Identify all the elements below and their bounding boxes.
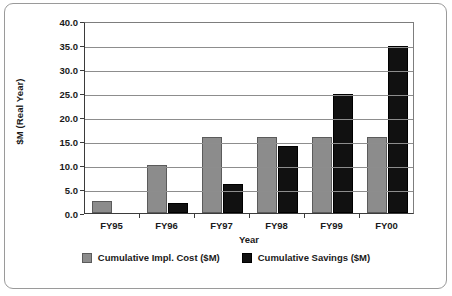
plot-area (84, 22, 414, 214)
chart-figure: $M (Real Year) 0.05.010.015.020.025.030.… (0, 0, 452, 296)
y-axis-title: $M (Real Year) (14, 62, 25, 162)
y-tick-label: 25.0 (32, 89, 78, 100)
y-tick-label: 0.0 (32, 209, 78, 220)
legend-item-savings[interactable]: Cumulative Savings ($M) (242, 252, 370, 263)
y-tick-mark (80, 22, 84, 23)
x-tick-label-fy95: FY95 (100, 220, 123, 231)
y-tick-mark (80, 46, 84, 47)
y-tick-mark (80, 70, 84, 71)
y-tick-label: 40.0 (32, 17, 78, 28)
legend-item-cost[interactable]: Cumulative Impl. Cost ($M) (82, 252, 220, 263)
x-tick-label-fy96: FY96 (155, 220, 178, 231)
y-tick-mark (80, 142, 84, 143)
y-tick-label: 5.0 (32, 185, 78, 196)
x-axis-title: Year (84, 234, 414, 245)
x-tick-mark (359, 214, 360, 218)
y-tick-label: 30.0 (32, 65, 78, 76)
x-tick-mark (194, 214, 195, 218)
y-tick-label: 20.0 (32, 113, 78, 124)
x-tick-label-fy98: FY98 (265, 220, 288, 231)
y-tick-mark (80, 94, 84, 95)
y-tick-label: 10.0 (32, 161, 78, 172)
bar-savings-fy00 (388, 46, 408, 213)
bar-cost-fy00 (367, 137, 387, 213)
y-tick-label: 35.0 (32, 41, 78, 52)
y-tick-mark (80, 166, 84, 167)
x-tick-mark (304, 214, 305, 218)
x-tick-mark (139, 214, 140, 218)
legend-label: Cumulative Savings ($M) (258, 252, 370, 263)
legend-swatch-savings-icon (242, 253, 252, 263)
chart-area: $M (Real Year) 0.05.010.015.020.025.030.… (0, 0, 452, 296)
x-tick-label-fy97: FY97 (210, 220, 233, 231)
y-tick-mark (80, 118, 84, 119)
x-tick-mark (249, 214, 250, 218)
bar-series-container (85, 23, 413, 213)
y-tick-mark (80, 214, 84, 215)
legend-label: Cumulative Impl. Cost ($M) (98, 252, 220, 263)
y-tick-mark (80, 190, 84, 191)
legend-swatch-cost-icon (82, 253, 92, 263)
x-tick-label-fy99: FY99 (320, 220, 343, 231)
y-tick-label: 15.0 (32, 137, 78, 148)
chart-legend: Cumulative Impl. Cost ($M)Cumulative Sav… (0, 252, 452, 263)
bar-group (85, 23, 415, 213)
x-tick-label-fy00: FY00 (375, 220, 398, 231)
